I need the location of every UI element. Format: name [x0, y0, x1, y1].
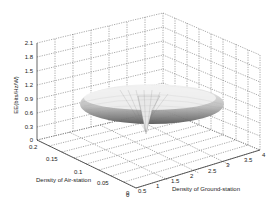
- z-axis-ticks: 2.1 1.8 1.5 1.2 0.9 0.6 0.3 0: [25, 40, 34, 143]
- z-axis-label: EE(bits/Hz/W): [13, 76, 19, 114]
- svg-text:0: 0: [126, 190, 130, 196]
- svg-text:3.5: 3.5: [244, 157, 253, 163]
- svg-text:0.05: 0.05: [97, 180, 109, 186]
- air-axis-ticks: 0.2 0.15 0.1 0.05 0: [29, 144, 130, 198]
- svg-text:1.5: 1.5: [25, 68, 34, 74]
- surface-mesh: [80, 84, 224, 134]
- svg-text:2: 2: [190, 173, 194, 179]
- svg-text:1.8: 1.8: [25, 54, 34, 60]
- svg-text:1.2: 1.2: [25, 82, 34, 88]
- svg-text:0.2: 0.2: [29, 144, 38, 150]
- svg-text:4: 4: [262, 152, 266, 158]
- svg-text:0.5: 0.5: [138, 188, 147, 194]
- back-right-wall-grid: [163, 13, 260, 150]
- ground-axis-label: Density of Ground-station: [172, 186, 240, 192]
- surface-chart: 2.1 1.8 1.5 1.2 0.9 0.6 0.3 0 EE(bits/Hz…: [0, 0, 280, 205]
- svg-text:0.1: 0.1: [74, 169, 83, 175]
- svg-text:0: 0: [30, 137, 34, 143]
- svg-text:3: 3: [226, 162, 230, 168]
- svg-text:0.9: 0.9: [25, 96, 34, 102]
- svg-text:0.6: 0.6: [25, 110, 34, 116]
- svg-text:1.5: 1.5: [171, 178, 180, 184]
- air-axis-label: Density of Air-station: [36, 177, 91, 183]
- svg-text:2.5: 2.5: [208, 168, 217, 174]
- svg-text:0.3: 0.3: [25, 124, 34, 130]
- svg-text:1: 1: [156, 183, 160, 189]
- svg-text:0.15: 0.15: [46, 156, 58, 162]
- svg-text:2.1: 2.1: [25, 40, 34, 46]
